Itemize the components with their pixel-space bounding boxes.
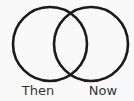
venn-diagram: Then Now [0, 0, 134, 101]
label-then: Then [22, 83, 54, 98]
circle-now [54, 7, 128, 81]
circle-then [13, 7, 87, 81]
label-now: Now [89, 83, 117, 98]
